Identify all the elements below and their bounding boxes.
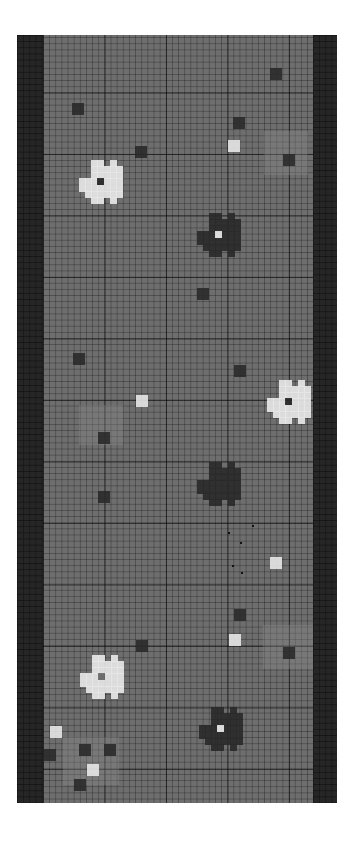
flower-petal <box>234 244 241 251</box>
light-square <box>270 557 282 569</box>
flower-petal <box>234 493 241 500</box>
speck <box>252 525 254 527</box>
white-flower-3 <box>80 655 123 698</box>
speck <box>232 565 234 567</box>
dark-square <box>135 146 147 158</box>
dark-square <box>283 154 295 166</box>
flower-petal <box>117 686 124 693</box>
flower-petal <box>97 197 104 204</box>
left-border-stripe <box>17 35 43 803</box>
dark-square <box>44 749 56 761</box>
flower-petal <box>215 499 222 506</box>
flower-petal <box>110 197 117 204</box>
dark-flower-3 <box>199 707 242 750</box>
flower-petal <box>228 499 235 506</box>
flower-petal <box>298 417 305 424</box>
light-square <box>50 726 62 738</box>
flower-petal <box>230 744 237 751</box>
flower-petal <box>215 250 222 257</box>
dark-square <box>98 432 110 444</box>
right-border-stripe <box>313 35 337 803</box>
flower-petal <box>217 744 224 751</box>
dark-square <box>283 647 295 659</box>
flower-petal <box>285 417 292 424</box>
dark-flower-1 <box>197 213 240 256</box>
white-flower-2 <box>267 380 310 423</box>
light-square <box>228 140 240 152</box>
faint-patch <box>264 131 308 175</box>
dark-square <box>233 117 245 129</box>
speck <box>228 532 230 534</box>
pattern-grid <box>17 35 337 803</box>
dark-flower-2 <box>197 462 240 505</box>
white-flower-1 <box>79 160 122 203</box>
flower-petal <box>116 191 123 198</box>
dark-square <box>74 779 86 791</box>
speck <box>241 572 243 574</box>
dark-square <box>136 640 148 652</box>
speck <box>240 542 242 544</box>
flower-petal <box>304 411 311 418</box>
dark-square <box>79 744 91 756</box>
flower-petal <box>228 250 235 257</box>
dark-square <box>270 68 282 80</box>
light-square <box>136 395 148 407</box>
flower-petal <box>111 692 118 699</box>
flower-petal <box>98 692 105 699</box>
dark-square <box>72 103 84 115</box>
dark-square <box>234 365 246 377</box>
dark-square <box>104 744 116 756</box>
dark-square <box>98 491 110 503</box>
dark-square <box>197 288 209 300</box>
light-square <box>87 764 99 776</box>
dark-square <box>73 353 85 365</box>
dark-square <box>234 609 246 621</box>
flower-petal <box>236 738 243 745</box>
light-square <box>229 634 241 646</box>
